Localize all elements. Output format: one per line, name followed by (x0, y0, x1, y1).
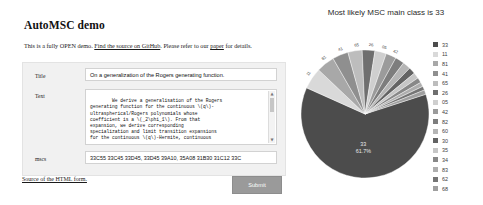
legend-label: 26 (442, 90, 448, 96)
pie-chart-svg: 3361.7%11814165260542 (290, 28, 430, 200)
pie-slice-label-65: 65 (354, 42, 360, 48)
legend-label: 62 (442, 176, 448, 182)
legend-item-05[interactable]: 05 (433, 98, 479, 108)
pie-slice-label-05: 05 (381, 44, 387, 50)
submit-button[interactable]: Submit (232, 176, 282, 194)
legend-swatch-icon (433, 177, 438, 182)
legend-swatch-icon (433, 148, 438, 153)
textarea-scrollbar[interactable]: ▲ ▼ (268, 91, 275, 143)
legend-swatch-icon (433, 90, 438, 95)
legend-swatch-icon (433, 81, 438, 86)
pie-slice-label-42: 42 (392, 48, 399, 55)
abstract-textarea-content: We derive a generalisation of the Rogers… (90, 98, 222, 140)
legend-swatch-icon (433, 119, 438, 124)
mscs-input[interactable]: 33C55 33C45 33D45, 33D45 39A10, 35A08 31… (85, 151, 277, 164)
legend-item-65[interactable]: 65 (433, 78, 479, 88)
intro-paragraph: This is a fully OPEN demo. Find the sour… (24, 42, 252, 49)
legend-label: 30 (442, 138, 448, 144)
legend-item-33[interactable]: 33 (433, 40, 479, 50)
legend-swatch-icon (433, 109, 438, 114)
legend-swatch-icon (433, 71, 438, 76)
legend-item-68[interactable]: 68 (433, 184, 479, 194)
html-form-source-link[interactable]: Source of the HTML form. (22, 176, 87, 182)
legend-item-82[interactable]: 82 (433, 117, 479, 127)
chart-title: Most likely MSC main class is 33 (298, 8, 474, 17)
legend-label: 81 (442, 61, 448, 67)
pie-slice-percent-main: 61.7% (356, 148, 371, 154)
scroll-down-icon[interactable]: ▼ (269, 137, 275, 143)
legend-label: 05 (442, 99, 448, 105)
legend-swatch-icon (433, 186, 438, 191)
pie-slice-label-41: 41 (337, 46, 344, 53)
abstract-textarea[interactable]: We derive a generalisation of the Rogers… (85, 89, 277, 145)
paper-link[interactable]: paper (210, 42, 224, 49)
title-field-label: Title (35, 73, 45, 79)
input-form-panel: Title On a generalization of the Rogers … (22, 62, 286, 176)
pie-slice-label-main: 33 (360, 141, 366, 147)
legend-item-26[interactable]: 26 (433, 88, 479, 98)
chart-legend: 33118141652605428260303534836268 (433, 40, 479, 194)
pie-slice-label-81: 81 (321, 54, 328, 61)
title-input[interactable]: On a generalization of the Rogers genera… (85, 68, 277, 81)
legend-label: 83 (442, 167, 448, 173)
chart-pane: Most likely MSC main class is 33 3361.7%… (290, 0, 483, 205)
demo-form-pane: AutoMSC demo This is a fully OPEN demo. … (0, 0, 300, 205)
legend-item-81[interactable]: 81 (433, 59, 479, 69)
legend-swatch-icon (433, 157, 438, 162)
legend-label: 34 (442, 157, 448, 163)
legend-item-11[interactable]: 11 (433, 50, 479, 60)
legend-label: 42 (442, 109, 448, 115)
legend-swatch-icon (433, 129, 438, 134)
pie-chart: 3361.7%11814165260542 (290, 28, 430, 200)
legend-label: 35 (442, 147, 448, 153)
legend-label: 68 (442, 186, 448, 192)
legend-item-60[interactable]: 60 (433, 126, 479, 136)
intro-text-before: This is a fully OPEN demo. (24, 42, 94, 49)
legend-label: 41 (442, 71, 448, 77)
intro-text-between: . Please refer to our (160, 42, 210, 49)
legend-item-41[interactable]: 41 (433, 69, 479, 79)
page-title: AutoMSC demo (24, 19, 105, 31)
pie-slices[interactable] (301, 50, 429, 178)
intro-text-after: for details. (224, 42, 252, 49)
legend-label: 33 (442, 42, 448, 48)
pie-slice-label-26: 26 (369, 42, 375, 47)
legend-swatch-icon (433, 100, 438, 105)
legend-swatch-icon (433, 61, 438, 66)
legend-label: 11 (442, 51, 448, 57)
legend-item-83[interactable]: 83 (433, 165, 479, 175)
legend-item-34[interactable]: 34 (433, 155, 479, 165)
scroll-up-icon[interactable]: ▲ (269, 91, 275, 97)
legend-label: 65 (442, 80, 448, 86)
legend-swatch-icon (433, 167, 438, 172)
legend-label: 60 (442, 128, 448, 134)
legend-item-30[interactable]: 30 (433, 136, 479, 146)
legend-swatch-icon (433, 138, 438, 143)
github-source-link[interactable]: Find the source on GitHub (94, 42, 160, 49)
legend-item-62[interactable]: 62 (433, 174, 479, 184)
scrollbar-thumb[interactable] (270, 98, 274, 112)
text-field-label: Text (35, 93, 45, 99)
legend-item-35[interactable]: 35 (433, 146, 479, 156)
legend-label: 82 (442, 119, 448, 125)
legend-item-42[interactable]: 42 (433, 107, 479, 117)
legend-swatch-icon (433, 42, 438, 47)
pie-slice-label-11: 11 (305, 70, 312, 77)
legend-swatch-icon (433, 52, 438, 57)
mscs-field-label: mscs (35, 156, 46, 162)
